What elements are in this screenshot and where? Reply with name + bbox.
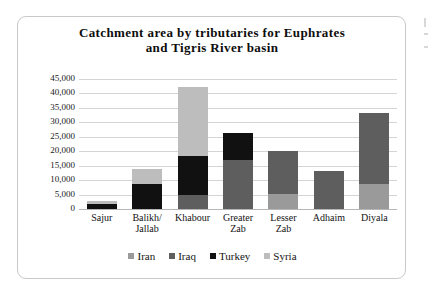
- y-axis-tick-label: 0: [31, 204, 75, 213]
- x-label-line: Zab: [255, 223, 311, 234]
- x-label-line: Khabour: [175, 212, 210, 223]
- scan-artifact: [424, 33, 428, 35]
- scan-artifact: [424, 18, 426, 27]
- x-label-line: Jallab: [119, 223, 175, 234]
- legend-swatch-icon: [264, 253, 270, 259]
- x-label-line: Balikh/: [132, 212, 161, 223]
- x-label-line: Sajur: [91, 212, 112, 223]
- bar-segment-turkey[interactable]: [223, 133, 253, 160]
- bar-column[interactable]: [268, 79, 298, 209]
- legend-label: Iran: [137, 250, 155, 262]
- y-axis-tick-label: 30,000: [31, 117, 75, 126]
- bar-column[interactable]: [223, 79, 253, 209]
- bar-segment-turkey[interactable]: [132, 184, 162, 209]
- y-axis-tick-label: 35,000: [31, 103, 75, 112]
- legend-swatch-icon: [210, 253, 216, 259]
- bar-segment-syria[interactable]: [87, 201, 117, 204]
- x-axis-labels: SajurBalikh/JallabKhabourGreaterZabLesse…: [79, 212, 397, 248]
- legend-item-iran[interactable]: Iran: [128, 250, 155, 262]
- y-axis: 45,00040,00035,00030,00025,00020,00015,0…: [29, 79, 75, 209]
- legend-label: Iraq: [178, 250, 196, 262]
- chart-title-line-1: Catchment area by tributaries for Euphra…: [32, 25, 392, 40]
- x-label-line: Greater: [223, 212, 253, 223]
- bar-segment-turkey[interactable]: [178, 156, 208, 195]
- bar-segment-iraq[interactable]: [178, 195, 208, 209]
- bar-segment-iraq[interactable]: [223, 160, 253, 209]
- bar-segment-syria[interactable]: [178, 87, 208, 156]
- x-label-line: Diyala: [361, 212, 388, 223]
- bar-segment-syria[interactable]: [132, 169, 162, 184]
- y-axis-tick-label: 10,000: [31, 175, 75, 184]
- legend-item-turkey[interactable]: Turkey: [210, 250, 250, 262]
- legend-item-iraq[interactable]: Iraq: [169, 250, 196, 262]
- bar-column[interactable]: [87, 79, 117, 209]
- bar-column[interactable]: [132, 79, 162, 209]
- chart-card: Catchment area by tributaries for Euphra…: [17, 16, 406, 279]
- bar-segment-iran[interactable]: [359, 184, 389, 209]
- x-axis-category-label: Diyala: [346, 212, 402, 223]
- legend-swatch-icon: [128, 253, 134, 259]
- plot-area: [79, 79, 397, 209]
- legend-label: Turkey: [219, 250, 250, 262]
- bar-segment-iraq[interactable]: [268, 151, 298, 193]
- y-axis-tick-label: 25,000: [31, 132, 75, 141]
- legend-item-syria[interactable]: Syria: [264, 250, 296, 262]
- x-label-line: Lesser: [270, 212, 296, 223]
- chart-title-line-2: and Tigris River basin: [32, 40, 392, 55]
- legend-label: Syria: [273, 250, 296, 262]
- y-axis-tick-label: 20,000: [31, 146, 75, 155]
- chart-legend: IranIraqTurkeySyria: [18, 250, 407, 262]
- y-axis-tick-label: 5,000: [31, 190, 75, 199]
- chart-title: Catchment area by tributaries for Euphra…: [32, 25, 392, 55]
- scan-artifact: [424, 46, 428, 48]
- x-label-line: Adhaim: [313, 212, 345, 223]
- bar-column[interactable]: [178, 79, 208, 209]
- legend-swatch-icon: [169, 253, 175, 259]
- axis-baseline: [79, 209, 397, 210]
- bar-segment-turkey[interactable]: [87, 204, 117, 209]
- bar-column[interactable]: [359, 79, 389, 209]
- bar-segment-iraq[interactable]: [314, 171, 344, 209]
- y-axis-tick-label: 15,000: [31, 161, 75, 170]
- y-axis-tick-label: 45,000: [31, 74, 75, 83]
- bar-segment-iran[interactable]: [268, 194, 298, 209]
- bar-column[interactable]: [314, 79, 344, 209]
- y-axis-tick-label: 40,000: [31, 88, 75, 97]
- bar-segment-iraq[interactable]: [359, 113, 389, 184]
